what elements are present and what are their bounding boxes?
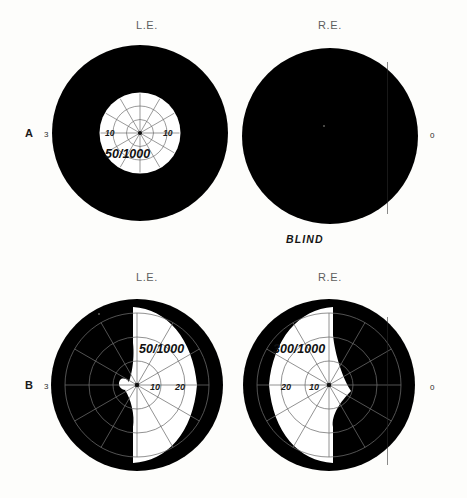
edge-label-right-b: 0 — [430, 383, 434, 392]
ring-label-b-le-10: 10 — [150, 382, 160, 392]
target-label-b-le: 50/1000 — [139, 342, 184, 356]
target-label-b-re: 300/1000 — [273, 342, 325, 356]
chart-a-right-eye — [240, 46, 420, 226]
scan-seam-b — [387, 317, 388, 465]
eye-header-le-a: L.E. — [136, 19, 158, 31]
ring-label-b-re-10: 10 — [309, 382, 319, 392]
chart-b-right-eye: 20 10 300/1000 — [233, 295, 419, 481]
ring-label-b-le-20: 20 — [174, 382, 185, 392]
scan-speck-b — [98, 313, 100, 315]
panel-A: A L.E. R.E. 3 0 BLIND — [0, 0, 467, 255]
scan-seam-a — [387, 62, 388, 214]
chart-a-left-eye: 10 10 50/1000 — [50, 43, 230, 223]
blind-footnote: BLIND — [286, 233, 324, 245]
fixation-point-a-le — [138, 131, 142, 135]
eye-header-re-b: R.E. — [318, 271, 342, 283]
chart-b-left-eye: 10 20 50/1000 — [47, 295, 233, 481]
fixation-point-b-re — [327, 383, 332, 388]
eye-header-le-b: L.E. — [136, 271, 158, 283]
panel-B: B L.E. R.E. 3 0 — [0, 255, 467, 498]
eye-header-re-a: R.E. — [318, 19, 342, 31]
ring-label-a-le-outer: 10 — [163, 128, 173, 138]
fixation-point-b-le — [135, 383, 140, 388]
scan-speck-a — [323, 125, 325, 127]
panel-letter-b: B — [25, 379, 33, 391]
perimetry-figure: A L.E. R.E. 3 0 BLIND — [0, 0, 467, 498]
edge-label-right-a: 0 — [430, 131, 434, 140]
ring-label-a-le-inner: 10 — [105, 128, 115, 138]
field-scotoma-a-re — [242, 48, 418, 224]
target-label-a-le: 50/1000 — [105, 147, 150, 161]
panel-letter-a: A — [25, 127, 33, 139]
ring-label-b-re-20: 20 — [280, 382, 291, 392]
